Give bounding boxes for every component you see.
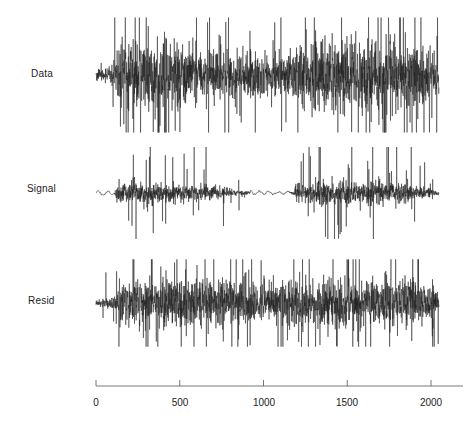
trace-resid [96,259,439,346]
x-tick-label-1000: 1000 [253,397,275,408]
trace-signal [96,147,439,239]
chart-canvas [0,0,474,432]
x-axis [96,380,463,386]
x-tick-label-2000: 2000 [420,397,442,408]
panel-label-resid: Resid [28,295,55,306]
panel-label-data: Data [31,68,53,79]
trace-data [96,18,439,133]
panel-label-signal: Signal [27,183,56,194]
x-tick-label-500: 500 [172,397,189,408]
trace-group [96,18,439,347]
x-tick-label-1500: 1500 [336,397,358,408]
x-tick-label-0: 0 [93,397,99,408]
